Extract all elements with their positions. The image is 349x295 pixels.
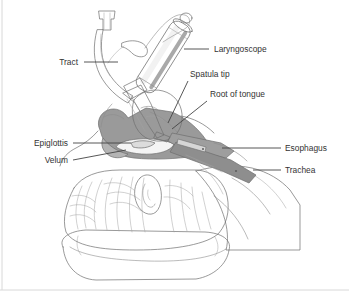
label-velum: Velum (45, 155, 68, 165)
ear-icon (135, 175, 162, 214)
hair-strokes (70, 177, 211, 232)
laryngoscopy-diagram: Tract Laryngoscope Spatula tip Root of t… (0, 0, 349, 295)
label-esophagus: Esophagus (285, 143, 327, 153)
label-tract: Tract (59, 57, 78, 67)
label-root-of-tongue: Root of tongue (210, 89, 265, 99)
diagram-canvas: Tract Laryngoscope Spatula tip Root of t… (0, 0, 349, 295)
label-laryngoscope: Laryngoscope (214, 44, 267, 54)
pillow (62, 230, 230, 280)
label-trachea: Trachea (285, 165, 316, 175)
label-spatula-tip: Spatula tip (190, 69, 230, 79)
laryngoscope-handle (124, 16, 194, 99)
head (64, 166, 300, 250)
label-epiglottis: Epiglottis (34, 138, 68, 148)
